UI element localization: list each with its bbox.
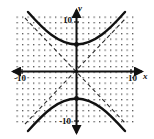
origin-point <box>75 70 78 73</box>
y-axis-label: y <box>78 4 82 13</box>
grid-dots <box>15 15 136 125</box>
y-axis-tick-label-10: 10 <box>63 16 72 25</box>
coordinate-plane <box>0 0 154 139</box>
x-axis-tick-label-negative-10: -10 <box>14 74 26 83</box>
y-axis-tick-label-negative-10: -10 <box>59 117 71 126</box>
x-axis-tick-label-10: 10 <box>128 74 137 83</box>
vertex-upper-point <box>74 42 79 47</box>
vertex-lower-point <box>74 96 79 101</box>
graph-figure: 10 -10 -10 10 y x <box>0 0 154 139</box>
x-axis-label: x <box>143 72 148 81</box>
